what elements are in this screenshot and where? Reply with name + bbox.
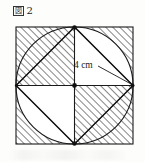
vertex-dot-center	[72, 83, 77, 88]
vertex-dot-right	[131, 84, 135, 88]
vertex-dot-top	[72, 25, 76, 29]
dimension-label: 4 cm	[74, 60, 93, 70]
geometry-diagram: 4 cm	[0, 0, 145, 162]
vertex-dot-left	[15, 84, 18, 87]
vertex-dot-bottom	[72, 141, 76, 145]
figure-container: 図2	[0, 0, 145, 162]
